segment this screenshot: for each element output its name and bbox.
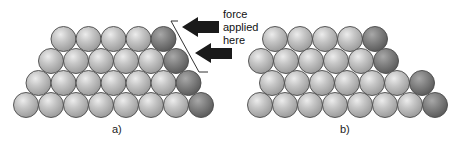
- displaced-atom: [151, 27, 176, 52]
- atom: [76, 27, 101, 52]
- atom: [248, 93, 273, 118]
- atom: [313, 27, 338, 52]
- panel-a: [14, 27, 214, 118]
- atom: [349, 49, 374, 74]
- annotation-line: force: [223, 8, 258, 21]
- atom: [89, 49, 114, 74]
- displaced-atom: [423, 93, 448, 118]
- atom: [164, 93, 189, 118]
- atom: [249, 49, 274, 74]
- atom: [373, 93, 398, 118]
- displaced-atom: [164, 49, 189, 74]
- atom: [51, 27, 76, 52]
- panel-label-b: b): [340, 123, 350, 135]
- atom: [114, 49, 139, 74]
- atom: [126, 27, 151, 52]
- annotation-line: applied: [223, 21, 258, 34]
- atom: [398, 93, 423, 118]
- atom: [263, 27, 288, 52]
- displaced-atom: [410, 71, 435, 96]
- atom: [323, 93, 348, 118]
- atom: [64, 93, 89, 118]
- atom: [139, 49, 164, 74]
- atom: [310, 71, 335, 96]
- displaced-atom: [189, 93, 214, 118]
- atom: [260, 71, 285, 96]
- atom: [274, 49, 299, 74]
- annotation-line: here: [223, 34, 258, 47]
- atom: [26, 71, 51, 96]
- panel-b: [248, 27, 448, 118]
- displaced-atom: [363, 27, 388, 52]
- atom: [360, 71, 385, 96]
- atom: [151, 71, 176, 96]
- atom: [348, 93, 373, 118]
- displaced-atom: [176, 71, 201, 96]
- atom: [273, 93, 298, 118]
- panel-label-a: a): [112, 123, 122, 135]
- displaced-atom: [374, 49, 399, 74]
- atom: [39, 49, 64, 74]
- atom: [139, 93, 164, 118]
- atom: [324, 49, 349, 74]
- atom: [51, 71, 76, 96]
- atom: [298, 93, 323, 118]
- force-arrow-upper-icon: [182, 17, 219, 37]
- atom: [114, 93, 139, 118]
- atom: [338, 27, 363, 52]
- atom: [335, 71, 360, 96]
- atom: [299, 49, 324, 74]
- atom: [101, 71, 126, 96]
- atom: [64, 49, 89, 74]
- atom: [89, 93, 114, 118]
- atom: [285, 71, 310, 96]
- atom: [288, 27, 313, 52]
- atom: [14, 93, 39, 118]
- atom: [76, 71, 101, 96]
- atom: [126, 71, 151, 96]
- force-annotation: force applied here: [223, 8, 258, 47]
- atom: [39, 93, 64, 118]
- atom: [101, 27, 126, 52]
- atom: [385, 71, 410, 96]
